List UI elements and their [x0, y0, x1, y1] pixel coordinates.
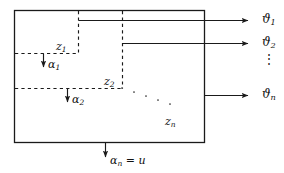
diagonal-ellipsis-dots [121, 87, 171, 105]
label-alpha2: α2 [72, 94, 84, 106]
label-thetan: ϑn [262, 88, 276, 101]
block-diagram-figure: z1 z2 zn α1 α2 αn = u ϑ1 ϑ2 ϑn ⋮ [0, 0, 284, 173]
label-z1: z1 [56, 41, 67, 53]
label-z2: z2 [104, 76, 115, 88]
label-zn: zn [165, 116, 176, 128]
diagram-canvas [0, 0, 284, 173]
vertical-ellipsis-icon: ⋮ [263, 58, 275, 61]
label-theta1: ϑ1 [262, 13, 276, 26]
label-alpha1: α1 [48, 59, 60, 71]
label-alpha-n-equals-u: αn = u [110, 155, 146, 167]
label-theta2: ϑ2 [262, 36, 276, 49]
